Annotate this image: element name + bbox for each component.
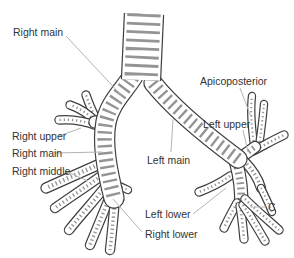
label-left-main: Left main bbox=[147, 154, 190, 166]
label-right-main: Right main bbox=[12, 147, 62, 159]
label-left-lower: Left lower bbox=[145, 208, 191, 220]
label-right-middle: Right middle bbox=[12, 165, 71, 177]
label-c: C bbox=[268, 201, 276, 213]
label-right-lower: Right lower bbox=[145, 228, 198, 240]
figure-canvas: Right main Apicoposterior Left upper Rig… bbox=[0, 0, 294, 258]
label-right-main-top: Right main bbox=[13, 26, 63, 38]
leader-right-main-top bbox=[66, 36, 122, 96]
label-right-upper: Right upper bbox=[12, 130, 67, 142]
label-left-upper: Left upper bbox=[203, 118, 251, 130]
leader-left-main bbox=[171, 119, 173, 152]
label-apicoposterior: Apicoposterior bbox=[200, 75, 268, 87]
bronchial-tree-diagram: Right main Apicoposterior Left upper Rig… bbox=[0, 0, 294, 258]
